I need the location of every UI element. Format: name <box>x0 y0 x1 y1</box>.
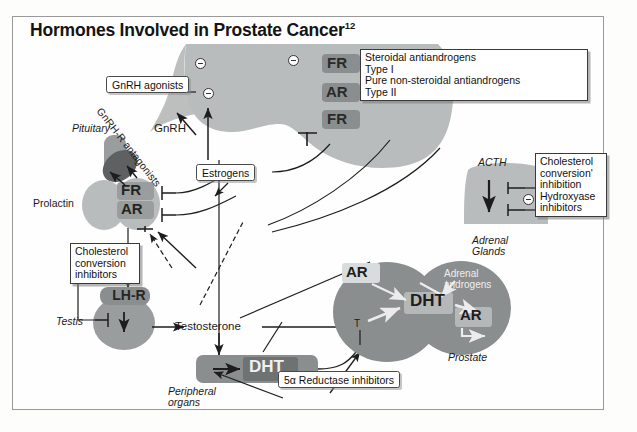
receptor-dht-prostate: DHT <box>410 291 445 311</box>
box-testis-cholesterol-inhibitors[interactable]: Cholesterol conversion inhibitors <box>70 243 140 284</box>
circle-minus-icon-adrenal <box>523 194 534 205</box>
label-adrenal-glands-line2: Glands <box>472 245 505 257</box>
box-adrenal-inhibitors-line5: inhibitors <box>540 202 602 214</box>
label-testosterone: Testosterone <box>175 320 241 332</box>
label-t-marker: T <box>354 318 360 329</box>
diagram-canvas: Hormones Involved in Prostate Cancer12 <box>0 0 637 432</box>
label-gnrh: GnRH <box>154 122 186 134</box>
receptor-prostate-ar-right: AR <box>460 306 482 323</box>
receptor-pituitary-ar: AR <box>121 200 143 217</box>
box-gnrh-agonists[interactable]: GnRH agonists <box>106 76 189 93</box>
circle-minus-icon-hypothalamus-top <box>288 55 299 66</box>
label-testis: Testis <box>56 315 83 327</box>
receptor-lh-r: LH-R <box>104 287 154 303</box>
box-testis-cholesterol-line1: Cholesterol <box>75 246 135 258</box>
label-acth: ACTH <box>478 156 507 168</box>
box-adrenal-inhibitors-line3: inhibition <box>540 179 602 191</box>
box-antiandrogens-line4: Type II <box>365 87 583 99</box>
box-adrenal-inhibitors[interactable]: Cholesterol conversion' inhibition Hydro… <box>535 153 607 217</box>
box-antiandrogens-line3: Pure non-steroidal antiandrogens <box>365 75 583 87</box>
box-adrenal-inhibitors-line1: Cholesterol <box>540 156 602 168</box>
box-estrogens[interactable]: Estrogens <box>196 164 255 181</box>
label-prostate: Prostate <box>448 351 487 363</box>
label-adrenal-androgens-line2: androgens <box>444 279 491 290</box>
box-5alpha-reductase-inhibitors[interactable]: 5α Reductase inhibitors <box>278 371 400 388</box>
label-prolactin: Prolactin <box>33 197 74 209</box>
receptor-prostate-ar-left: AR <box>346 263 368 280</box>
pituitary-feedback-arrows <box>137 226 196 268</box>
circle-minus-icon-hypothalamus-left <box>195 58 206 69</box>
receptor-pituitary-fr: FR <box>121 181 141 198</box>
label-adrenal-androgens-line1: Adrenal <box>444 268 478 279</box>
box-antiandrogens-line1: Steroidal antiandrogens <box>365 52 583 64</box>
circle-minus-icon-gnrh <box>203 88 214 99</box>
receptor-hypothalamus-fr-bottom: FR <box>327 110 347 127</box>
box-testis-cholesterol-line3: inhibitors <box>75 269 135 281</box>
receptor-hypothalamus-fr-top: FR <box>327 54 347 71</box>
receptor-hypothalamus-ar: AR <box>326 83 348 100</box>
box-antiandrogens[interactable]: Steroidal antiandrogens Type I Pure non-… <box>360 49 588 101</box>
label-peripheral-organs-line2: organs <box>168 396 200 408</box>
